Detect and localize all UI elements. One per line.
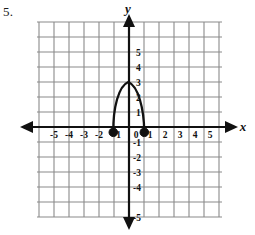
y-axis-name-label: y xyxy=(123,1,131,16)
x-axis-name-label: x xyxy=(239,119,247,134)
y-tick-label: 3 xyxy=(136,78,141,88)
y-tick-label: -3 xyxy=(133,168,141,178)
x-tick-label: -3 xyxy=(80,130,88,140)
right-root-point-dot xyxy=(140,128,149,137)
x-tick-label: 4 xyxy=(193,130,198,140)
y-tick-label: -4 xyxy=(133,183,141,193)
coordinate-plane-svg: y x -5 -4 -3 -2 -1 0 1 2 3 4 5 5 4 3 xyxy=(0,0,255,235)
x-tick-label: 2 xyxy=(163,130,168,140)
x-tick-label: 5 xyxy=(208,130,213,140)
coordinate-graph-figure: y x -5 -4 -3 -2 -1 0 1 2 3 4 5 5 4 3 xyxy=(0,0,255,235)
x-tick-label: -4 xyxy=(65,130,73,140)
x-tick-label: -2 xyxy=(95,130,103,140)
axes xyxy=(20,14,238,230)
y-tick-label: 4 xyxy=(136,63,141,73)
y-tick-label: -5 xyxy=(133,213,141,223)
y-tick-label: 5 xyxy=(136,48,141,58)
left-root-point-dot xyxy=(109,128,118,137)
y-tick-label: -2 xyxy=(133,153,141,163)
y-tick-label: -1 xyxy=(133,138,141,148)
y-tick-label: 1 xyxy=(136,108,141,118)
x-tick-label: -5 xyxy=(50,130,58,140)
x-axis-arrow-left xyxy=(20,121,33,133)
x-tick-label: 3 xyxy=(178,130,183,140)
x-axis-arrow-right xyxy=(225,121,238,133)
x-axis-tick-labels: -5 -4 -3 -2 -1 0 1 2 3 4 5 xyxy=(50,130,213,140)
worksheet-problem: 5. xyxy=(0,0,255,235)
